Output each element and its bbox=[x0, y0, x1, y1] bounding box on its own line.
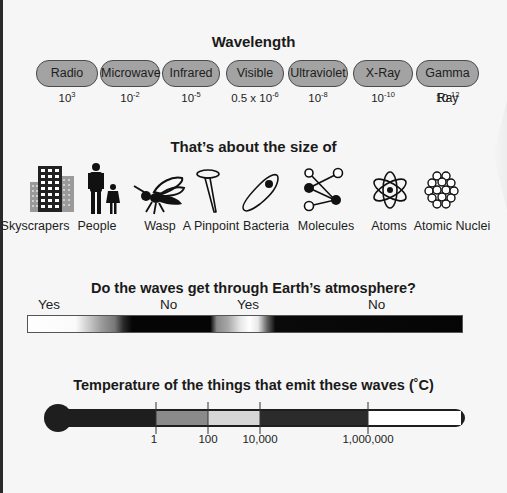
temperature-tick-1000000: 1,000,000 bbox=[342, 433, 393, 445]
atmosphere-label-yes-visible: Yes bbox=[237, 297, 259, 312]
atmosphere-transmission-bar bbox=[27, 315, 463, 333]
page-edge-shade bbox=[493, 100, 507, 210]
bacteria-icon bbox=[240, 170, 282, 214]
band-visible: Visible bbox=[226, 60, 284, 87]
wavelength-title: Wavelength bbox=[0, 33, 507, 50]
wasp-icon bbox=[132, 176, 188, 216]
wavelength-radio: 103 bbox=[36, 90, 98, 104]
atmosphere-title: Do the waves get through Earth’s atmosph… bbox=[0, 280, 507, 296]
band-ultraviolet: Ultraviolet bbox=[288, 60, 348, 87]
skyscrapers-icon bbox=[28, 164, 76, 214]
atom-icon bbox=[370, 168, 410, 212]
wavelength-gamma-ray: 10-12 bbox=[416, 90, 479, 104]
size-label-atoms: Atoms bbox=[368, 219, 410, 233]
atomic-nucleus-icon bbox=[424, 170, 460, 210]
wavelength-bands: Radio Microwave Infrared Visible Ultravi… bbox=[36, 60, 479, 87]
size-label-pinpoint: A Pinpoint bbox=[180, 219, 242, 233]
temperature-tick-100: 100 bbox=[198, 433, 217, 445]
size-title: That’s about the size of bbox=[0, 138, 507, 155]
temperature-tick-10000: 10,000 bbox=[242, 433, 277, 445]
wavelength-ultraviolet: 10-8 bbox=[288, 90, 348, 104]
thermometer-scale bbox=[40, 400, 470, 436]
band-gamma-ray: Gamma Ray bbox=[416, 60, 479, 87]
size-label-people: People bbox=[72, 219, 122, 233]
size-label-skyscrapers: Skyscrapers bbox=[0, 219, 70, 233]
atmosphere-label-no-uv: No bbox=[368, 297, 385, 312]
wavelength-xray: 10-10 bbox=[353, 90, 413, 104]
molecules-icon bbox=[302, 166, 346, 214]
wavelength-microwave: 10-2 bbox=[100, 90, 160, 104]
band-microwave: Microwave bbox=[100, 60, 160, 87]
size-label-molecules: Molecules bbox=[296, 219, 356, 233]
people-icon bbox=[86, 162, 122, 216]
band-xray: X-Ray bbox=[353, 60, 413, 87]
temperature-tick-1: 1 bbox=[151, 433, 157, 445]
wavelength-visible: 0.5 x 10-6 bbox=[222, 90, 288, 104]
band-radio: Radio bbox=[36, 60, 98, 87]
left-border bbox=[0, 0, 3, 493]
size-label-atomic-nuclei: Atomic Nuclei bbox=[412, 219, 492, 233]
temperature-title: Temperature of the things that emit thes… bbox=[0, 377, 507, 393]
band-infrared: Infrared bbox=[162, 60, 220, 87]
wavelength-infrared: 10-5 bbox=[162, 90, 220, 104]
size-label-bacteria: Bacteria bbox=[240, 219, 292, 233]
atmosphere-label-yes-radio: Yes bbox=[38, 297, 60, 312]
size-label-wasp: Wasp bbox=[140, 219, 180, 233]
atmosphere-label-no-infrared: No bbox=[160, 297, 177, 312]
pinpoint-icon bbox=[194, 168, 224, 216]
